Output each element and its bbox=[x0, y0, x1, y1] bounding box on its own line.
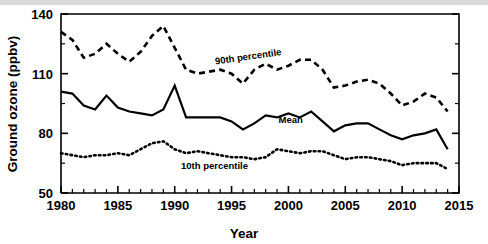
series-path-10th-percentile bbox=[61, 141, 448, 169]
ozone-trend-figure: 19801985199019952000200520102015 5080110… bbox=[0, 0, 488, 244]
y-axis-title: Ground ozone (ppbv) bbox=[5, 36, 20, 172]
x-tick-label: 2000 bbox=[274, 198, 303, 213]
y-tick-label: 80 bbox=[39, 126, 53, 141]
y-tick-label: 50 bbox=[39, 186, 53, 201]
x-axis-title: Year bbox=[230, 226, 259, 241]
x-tick-label: 2015 bbox=[445, 198, 474, 213]
x-tick-label: 2010 bbox=[388, 198, 417, 213]
x-tick-label: 1985 bbox=[103, 198, 132, 213]
series-label-mean: Mean bbox=[279, 114, 303, 125]
series-path-90th-percentile bbox=[61, 26, 448, 112]
series-label-90th-percentile: 90th percentile bbox=[214, 46, 282, 66]
y-tick-label: 140 bbox=[31, 7, 53, 22]
series-label-10th-percentile: 10th percentile bbox=[181, 160, 248, 171]
y-tick-label: 110 bbox=[32, 67, 53, 82]
x-tick-label: 1995 bbox=[217, 198, 246, 213]
x-tick-label: 2005 bbox=[331, 198, 360, 213]
data-series-layer bbox=[61, 26, 448, 169]
x-tick-label: 1990 bbox=[160, 198, 189, 213]
series-path-mean bbox=[61, 86, 448, 150]
figure-top-band bbox=[0, 0, 488, 5]
y-axis-tick-labels: 5080110140 bbox=[31, 7, 53, 201]
ground-ozone-line-chart: 19801985199019952000200520102015 5080110… bbox=[0, 0, 488, 244]
x-axis-tick-labels: 19801985199019952000200520102015 bbox=[47, 198, 474, 213]
